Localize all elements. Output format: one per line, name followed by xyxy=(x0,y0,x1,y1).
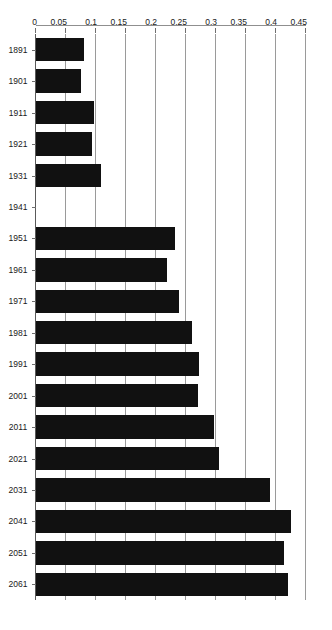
value-axis-label-0-25: 0.25 xyxy=(153,17,187,27)
bar-1961[interactable] xyxy=(36,258,167,281)
bar-slot-1891 xyxy=(36,34,306,65)
bar-slot-1961 xyxy=(36,254,306,285)
category-axis-label-1961: 1961 xyxy=(1,265,35,275)
value-tick-0-35 xyxy=(245,28,246,33)
category-axis-label-2021: 2021 xyxy=(1,454,35,464)
bar-slot-2061 xyxy=(36,569,306,600)
bar-2011[interactable] xyxy=(36,415,214,438)
category-axis-label-1891: 1891 xyxy=(1,45,35,55)
bar-slot-1981 xyxy=(36,317,306,348)
value-axis-label-0-3: 0.3 xyxy=(183,17,217,27)
category-axis-label-2041: 2041 xyxy=(1,516,35,526)
value-tick-0 xyxy=(35,28,36,33)
category-axis-label-2011: 2011 xyxy=(1,422,35,432)
bar-slot-2031 xyxy=(36,474,306,505)
category-axis-label-2051: 2051 xyxy=(1,548,35,558)
value-tick-0-45 xyxy=(305,28,306,33)
bar-1931[interactable] xyxy=(36,164,101,187)
rotated-chart-stage: 0.450.40.350.30.250.20.150.10.050 189119… xyxy=(0,0,332,630)
bar-2041[interactable] xyxy=(36,510,291,533)
bar-1971[interactable] xyxy=(36,290,179,313)
bar-1981[interactable] xyxy=(36,321,192,344)
value-axis-label-0-45: 0.45 xyxy=(273,17,307,27)
bar-2001[interactable] xyxy=(36,384,198,407)
plot-area xyxy=(36,34,306,600)
bar-slot-2041 xyxy=(36,506,306,537)
category-axis-label-1951: 1951 xyxy=(1,233,35,243)
value-axis-label-0-05: 0.05 xyxy=(33,17,67,27)
value-tick-0-1 xyxy=(95,28,96,33)
bar-2051[interactable] xyxy=(36,541,284,564)
bar-slot-1951 xyxy=(36,223,306,254)
bar-slot-1971 xyxy=(36,286,306,317)
category-axis-label-1981: 1981 xyxy=(1,328,35,338)
category-axis-label-1931: 1931 xyxy=(1,171,35,181)
category-axis-label-1971: 1971 xyxy=(1,296,35,306)
value-tick-0-3 xyxy=(215,28,216,33)
value-axis-label-0-1: 0.1 xyxy=(63,17,97,27)
value-tick-0-05 xyxy=(65,28,66,33)
value-axis-label-0-35: 0.35 xyxy=(213,17,247,27)
bar-slot-1931 xyxy=(36,160,306,191)
bar-2021[interactable] xyxy=(36,447,219,470)
value-axis-label-0-4: 0.4 xyxy=(243,17,277,27)
bar-slot-1921 xyxy=(36,128,306,159)
bar-1911[interactable] xyxy=(36,101,94,124)
bar-slot-2011 xyxy=(36,411,306,442)
value-axis-label-0-15: 0.15 xyxy=(93,17,127,27)
value-axis-label-0: 0 xyxy=(3,17,37,27)
bar-2061[interactable] xyxy=(36,573,288,596)
value-tick-0-15 xyxy=(125,28,126,33)
category-axis-label-2031: 2031 xyxy=(1,485,35,495)
bar-slot-2001 xyxy=(36,380,306,411)
category-axis-label-1911: 1911 xyxy=(1,108,35,118)
value-tick-0-2 xyxy=(155,28,156,33)
bar-1951[interactable] xyxy=(36,227,175,250)
bar-2031[interactable] xyxy=(36,478,270,501)
bar-slot-2021 xyxy=(36,443,306,474)
bar-slot-1911 xyxy=(36,97,306,128)
bar-1901[interactable] xyxy=(36,69,81,92)
category-axis-label-2061: 2061 xyxy=(1,579,35,589)
category-axis-label-1991: 1991 xyxy=(1,359,35,369)
bar-slot-1901 xyxy=(36,65,306,96)
value-tick-0-4 xyxy=(275,28,276,33)
bar-1991[interactable] xyxy=(36,352,199,375)
category-axis-label-1901: 1901 xyxy=(1,76,35,86)
bar-1921[interactable] xyxy=(36,132,92,155)
bar-slot-1991 xyxy=(36,348,306,379)
value-axis-label-0-2: 0.2 xyxy=(123,17,157,27)
bar-slot-2051 xyxy=(36,537,306,568)
chart-figure: 0.450.40.350.30.250.20.150.10.050 189119… xyxy=(0,0,332,630)
category-axis-label-1921: 1921 xyxy=(1,139,35,149)
category-axis-label-2001: 2001 xyxy=(1,391,35,401)
bar-1891[interactable] xyxy=(36,38,84,61)
bar-slot-1941 xyxy=(36,191,306,222)
category-axis-label-1941: 1941 xyxy=(1,202,35,212)
value-tick-0-25 xyxy=(185,28,186,33)
